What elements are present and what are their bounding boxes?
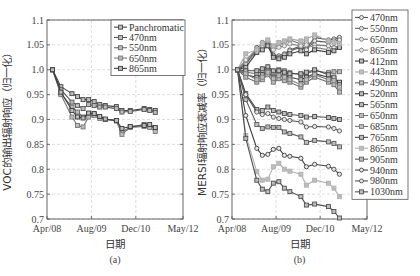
data-point [120, 110, 124, 114]
series-1030nm [236, 68, 342, 220]
data-point [337, 216, 341, 220]
legend-entry: 550nm [370, 23, 398, 34]
data-point [326, 50, 330, 54]
data-point [271, 69, 275, 73]
data-point [313, 115, 317, 119]
legend-entry: 865nm [370, 45, 398, 56]
data-point [313, 73, 317, 77]
y-tick-label: 0.95 [212, 89, 230, 100]
data-point [98, 115, 102, 119]
chart-panel-a: 0.70.750.80.850.90.951.01.051.1Apr/08Aug… [1, 15, 199, 267]
data-point [277, 161, 281, 165]
data-point [337, 118, 341, 122]
data-point [337, 42, 341, 46]
data-point [332, 141, 336, 145]
data-point [304, 70, 308, 74]
data-point [260, 126, 264, 130]
x-tick-label: Aug/09 [261, 223, 291, 234]
y-tick-label: 1.05 [212, 39, 230, 50]
data-point [271, 147, 275, 151]
legend-entry: 765nm [370, 132, 398, 143]
y-tick-label: 0.8 [32, 164, 45, 175]
data-point [266, 38, 270, 42]
data-point [271, 44, 275, 48]
data-point [76, 110, 80, 114]
data-point [299, 44, 303, 48]
data-point [92, 100, 96, 104]
series-865nm [51, 68, 158, 131]
data-point [260, 112, 264, 116]
data-point [282, 55, 286, 59]
data-point [260, 75, 264, 79]
data-point [299, 120, 303, 124]
data-point [332, 40, 336, 44]
data-point [114, 118, 118, 122]
chart-panel-b: 0.70.750.80.850.90.951.01.051.1Apr/08Aug… [196, 10, 408, 266]
legend-entry: 650nm [370, 110, 398, 121]
data-point [326, 39, 330, 43]
data-point [266, 44, 270, 48]
data-point [288, 154, 292, 158]
x-tick-label: May/12 [167, 223, 198, 234]
data-point [304, 183, 308, 187]
data-point [266, 105, 270, 109]
legend-entry: 685nm [370, 121, 398, 132]
y-tick-label: 0.8 [217, 164, 230, 175]
data-point [266, 65, 270, 69]
data-point [260, 178, 264, 182]
x-tick-label: Apr/08 [33, 223, 61, 234]
data-point [304, 140, 308, 144]
x-tick-label: Apr/08 [218, 223, 246, 234]
panel-label: (a) [109, 254, 120, 266]
data-point [103, 105, 107, 109]
data-point [304, 165, 308, 169]
data-point [337, 38, 341, 42]
data-point [313, 33, 317, 37]
data-point [260, 109, 264, 113]
data-point [326, 73, 330, 77]
x-tick-label: Dec/10 [121, 223, 150, 234]
data-point [255, 48, 259, 52]
data-point [332, 167, 336, 171]
data-point [337, 172, 341, 176]
data-point [148, 122, 152, 126]
data-point [288, 37, 292, 41]
legend-entry: 940nm [370, 165, 398, 176]
data-point [266, 190, 270, 194]
data-point [299, 135, 303, 139]
data-point [326, 78, 330, 82]
legend-entry: 650nm [370, 34, 398, 45]
data-point [304, 43, 308, 47]
data-point [87, 98, 91, 102]
data-point [299, 49, 303, 53]
data-point [282, 112, 286, 116]
data-point [304, 125, 308, 129]
data-point [332, 83, 336, 87]
data-point [51, 68, 55, 72]
data-point [103, 117, 107, 121]
data-point [288, 42, 292, 46]
data-point [288, 131, 292, 135]
data-point [148, 109, 152, 113]
data-point [304, 115, 308, 119]
data-point [299, 83, 303, 87]
data-point [266, 177, 270, 181]
data-point [271, 109, 275, 113]
data-point [92, 104, 96, 108]
data-point [266, 111, 270, 115]
data-point [326, 205, 330, 209]
data-point [282, 39, 286, 43]
data-point [98, 105, 102, 109]
legend-entry: 865nm [129, 63, 157, 74]
data-point [244, 72, 248, 76]
data-point [282, 117, 286, 121]
data-point [337, 85, 341, 89]
y-tick-label: 0.9 [217, 114, 230, 125]
data-point [313, 162, 317, 166]
data-point [81, 125, 85, 129]
legend-entry: 865nm [370, 143, 398, 154]
data-point [153, 129, 157, 133]
y-tick-label: 0.85 [212, 139, 230, 150]
data-point [76, 123, 80, 127]
data-point [337, 129, 341, 133]
